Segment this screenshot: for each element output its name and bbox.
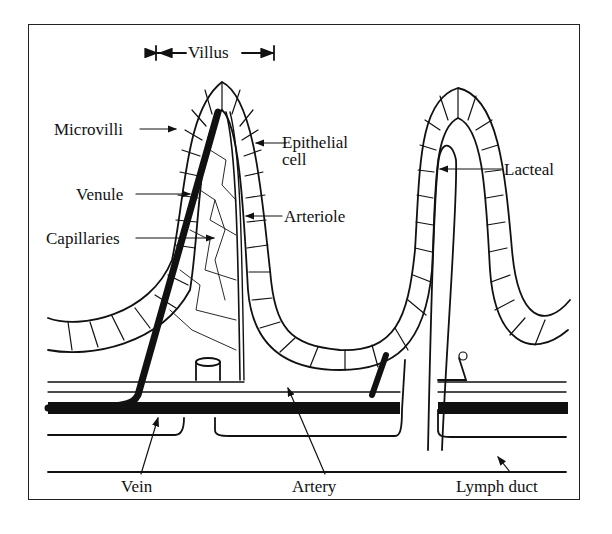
- arteriole: [226, 112, 240, 380]
- label-lymph-duct: Lymph duct: [456, 478, 538, 496]
- vein: [48, 402, 400, 414]
- venule: [48, 112, 218, 408]
- label-villus: Villus: [188, 44, 229, 62]
- label-arteriole: Arteriole: [284, 208, 345, 226]
- label-capillaries: Capillaries: [46, 230, 120, 248]
- label-artery: Artery: [292, 478, 336, 496]
- label-microvilli: Microvilli: [54, 121, 123, 139]
- villus-illustration: [0, 0, 612, 534]
- label-lacteal: Lacteal: [504, 161, 554, 179]
- label-venule: Venule: [76, 186, 123, 204]
- epithelial-cell-dividers: [68, 82, 545, 370]
- label-epithelial-cell-line2: cell: [282, 151, 307, 169]
- label-vein: Vein: [121, 478, 152, 496]
